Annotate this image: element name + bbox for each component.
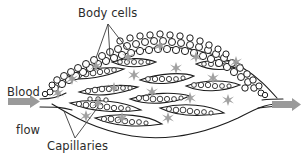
capillary-bed-diagram: Body cells Capillaries Blood flow bbox=[0, 0, 307, 159]
label-blood-flow: Blood flow bbox=[7, 61, 40, 159]
label-blood-flow-line2: flow bbox=[7, 124, 40, 137]
leader-lines-capillaries bbox=[64, 107, 98, 138]
label-blood-flow-line1: Blood bbox=[7, 86, 40, 99]
blood-flow-outlet-arrow bbox=[272, 98, 301, 111]
label-capillaries: Capillaries bbox=[47, 140, 108, 153]
label-body-cells: Body cells bbox=[78, 7, 137, 20]
diagram-canvas bbox=[0, 0, 307, 159]
